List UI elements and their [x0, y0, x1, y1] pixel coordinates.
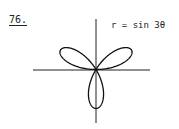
polar-plot	[0, 0, 179, 129]
